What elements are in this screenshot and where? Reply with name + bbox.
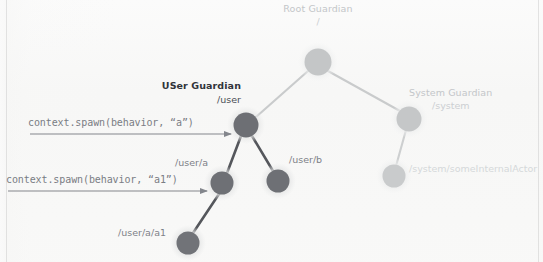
user-a-path-label: /user/a [98, 158, 208, 169]
root-guardian-title: Root Guardian [258, 4, 378, 15]
node-system-some-internal-actor[interactable] [383, 165, 406, 188]
system-guardian-title: System Guardian [409, 88, 492, 99]
edge-usera-to-a1 [193, 194, 219, 233]
system-internal-actor-path-label: /system/someInternalActor [409, 164, 537, 175]
spawn-a-annotation-text: context.spawn(behavior, “a”) [28, 117, 194, 129]
root-guardian-path: / [258, 17, 378, 28]
system-guardian-path: /system [432, 101, 470, 112]
node-user-a-a1[interactable] [177, 232, 200, 255]
actor-tree-graphic [0, 0, 543, 262]
node-root-guardian[interactable] [305, 49, 332, 76]
node-system-guardian[interactable] [397, 107, 422, 132]
node-user-guardian[interactable] [234, 113, 259, 138]
diagram-canvas: Root Guardian / USer Guardian /user Syst… [0, 0, 543, 262]
spawn-a1-annotation-text: context.spawn(behavior, “a1”) [6, 174, 178, 186]
edge-group-light [256, 71, 406, 166]
edge-root-to-system [328, 71, 400, 111]
node-halo-group [170, 42, 428, 261]
node-user-a[interactable] [211, 172, 234, 195]
user-guardian-path: /user [106, 95, 241, 106]
edge-root-to-user [256, 71, 308, 117]
user-b-path-label: /user/b [289, 155, 322, 166]
node-user-b[interactable] [267, 170, 290, 193]
user-a-a1-path-label: /user/a/a1 [56, 228, 166, 239]
user-guardian-title: USer Guardian [106, 81, 241, 92]
